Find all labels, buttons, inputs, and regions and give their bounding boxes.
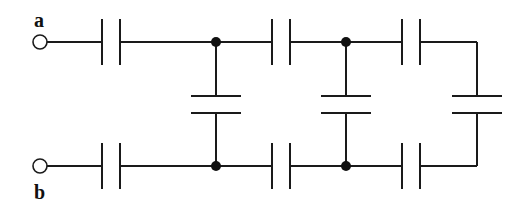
top-rail [47, 42, 477, 96]
junction-dot-icon [211, 37, 221, 47]
junction-nodes [211, 37, 351, 171]
junction-dot-icon [341, 37, 351, 47]
bottom-rail [47, 113, 477, 166]
series-capacitor-bottom-2 [272, 143, 290, 189]
junction-dot-icon [341, 161, 351, 171]
series-capacitor-top-3 [402, 19, 420, 65]
terminal-b-label: b [34, 181, 45, 203]
terminal-a-icon [33, 35, 47, 49]
series-capacitor-bottom-3 [402, 143, 420, 189]
junction-dot-icon [211, 161, 221, 171]
shunt-capacitor-3 [452, 96, 502, 113]
series-capacitor-top-1 [102, 19, 120, 65]
circuit-diagram: a b [0, 0, 531, 211]
terminal-b-icon [33, 159, 47, 173]
series-capacitor-bottom-1 [102, 143, 120, 189]
shunt-capacitor-2 [321, 42, 371, 166]
shunt-capacitor-1 [191, 42, 241, 166]
series-capacitor-top-2 [272, 19, 290, 65]
terminal-a-label: a [34, 9, 44, 31]
